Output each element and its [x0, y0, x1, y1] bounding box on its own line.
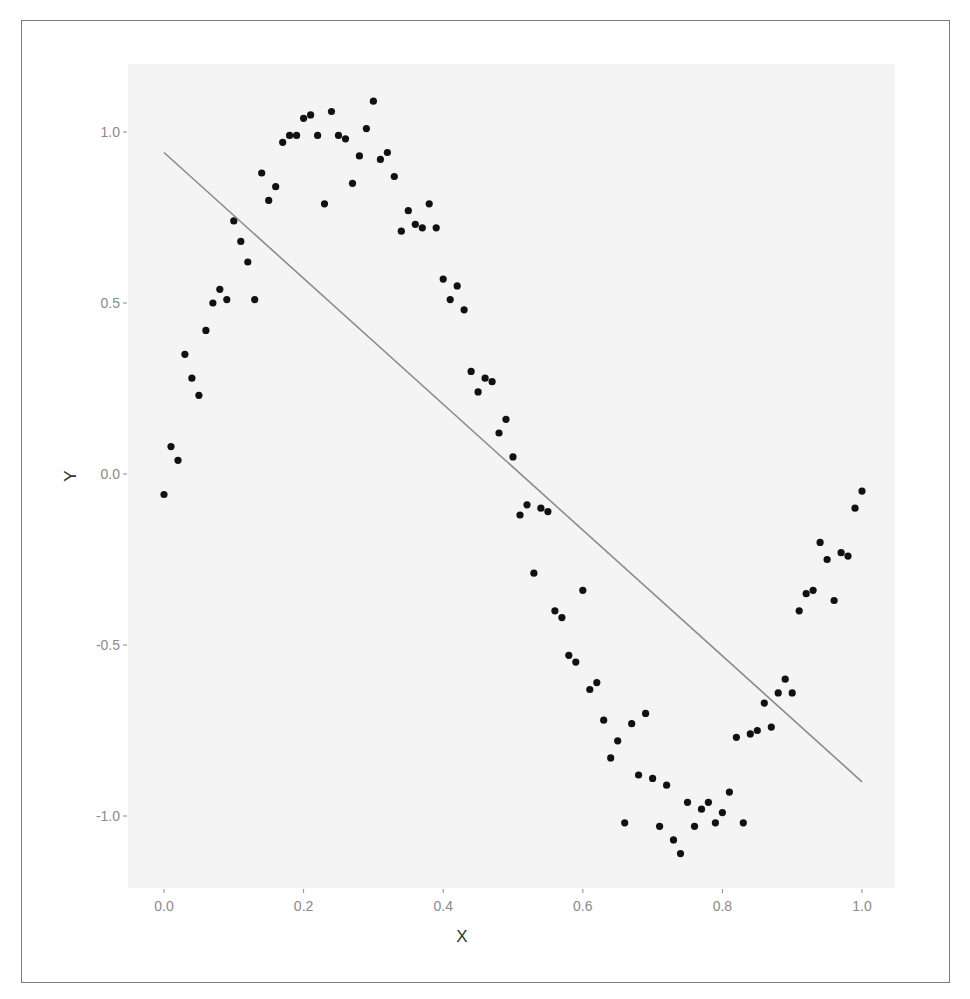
data-point: [433, 224, 440, 231]
data-point: [489, 378, 496, 385]
data-point: [321, 200, 328, 207]
scatter-chart: 0.00.20.40.60.81.0 -1.0-0.50.00.51.0 X Y: [0, 0, 970, 999]
data-point: [719, 809, 726, 816]
y-tick-label: 0.5: [101, 295, 121, 311]
data-point: [307, 111, 314, 118]
data-point: [195, 392, 202, 399]
data-point: [670, 836, 677, 843]
data-point: [572, 659, 579, 666]
data-point: [251, 296, 258, 303]
data-point: [475, 388, 482, 395]
data-point: [761, 700, 768, 707]
y-tick-label: -1.0: [96, 808, 120, 824]
x-axis-title: X: [456, 927, 467, 946]
data-point: [523, 501, 530, 508]
data-point: [817, 539, 824, 546]
data-point: [775, 689, 782, 696]
data-point: [544, 508, 551, 515]
data-point: [447, 296, 454, 303]
data-point: [621, 819, 628, 826]
data-point: [293, 132, 300, 139]
data-point: [691, 823, 698, 830]
data-point: [516, 511, 523, 518]
data-point: [614, 737, 621, 744]
data-point: [831, 597, 838, 604]
data-point: [398, 228, 405, 235]
data-point: [593, 679, 600, 686]
data-point: [642, 710, 649, 717]
data-point: [391, 173, 398, 180]
data-point: [174, 457, 181, 464]
data-point: [754, 727, 761, 734]
data-point: [314, 132, 321, 139]
data-point: [628, 720, 635, 727]
data-point: [586, 686, 593, 693]
data-point: [726, 789, 733, 796]
data-point: [844, 553, 851, 560]
data-point: [858, 488, 865, 495]
plot-panel: [128, 64, 895, 888]
data-point: [656, 823, 663, 830]
data-point: [188, 375, 195, 382]
data-point: [607, 754, 614, 761]
data-point: [419, 224, 426, 231]
data-point: [705, 799, 712, 806]
data-point: [537, 505, 544, 512]
x-tick-label: 0.2: [294, 898, 314, 914]
data-point: [258, 169, 265, 176]
data-point: [370, 98, 377, 105]
data-point: [412, 221, 419, 228]
data-point: [684, 799, 691, 806]
data-point: [579, 587, 586, 594]
data-point: [349, 180, 356, 187]
data-point: [509, 453, 516, 460]
data-point: [356, 152, 363, 159]
data-point: [328, 108, 335, 115]
data-point: [768, 724, 775, 731]
x-tick-label: 0.4: [433, 898, 453, 914]
data-point: [495, 429, 502, 436]
data-point: [558, 614, 565, 621]
data-point: [803, 590, 810, 597]
data-point: [649, 775, 656, 782]
y-axis: -1.0-0.50.00.51.0: [96, 124, 127, 824]
data-point: [810, 587, 817, 594]
data-point: [300, 115, 307, 122]
data-point: [167, 443, 174, 450]
data-point: [279, 139, 286, 146]
data-point: [181, 351, 188, 358]
data-point: [635, 771, 642, 778]
data-point: [342, 135, 349, 142]
data-point: [712, 819, 719, 826]
y-tick-label: -0.5: [96, 637, 120, 653]
data-point: [405, 207, 412, 214]
data-point: [796, 607, 803, 614]
y-tick-label: 1.0: [101, 124, 121, 140]
data-point: [363, 125, 370, 132]
data-point: [377, 156, 384, 163]
data-point: [454, 282, 461, 289]
x-tick-label: 1.0: [852, 898, 872, 914]
data-point: [502, 416, 509, 423]
data-point: [440, 276, 447, 283]
data-point: [663, 782, 670, 789]
data-point: [202, 327, 209, 334]
data-point: [335, 132, 342, 139]
data-point: [782, 676, 789, 683]
data-point: [551, 607, 558, 614]
data-point: [244, 258, 251, 265]
data-point: [530, 570, 537, 577]
data-point: [286, 132, 293, 139]
data-point: [824, 556, 831, 563]
data-point: [698, 806, 705, 813]
data-point: [733, 734, 740, 741]
data-point: [851, 505, 858, 512]
x-tick-label: 0.0: [154, 898, 174, 914]
data-point: [468, 368, 475, 375]
data-point: [160, 491, 167, 498]
data-point: [461, 306, 468, 313]
x-tick-label: 0.8: [713, 898, 733, 914]
x-axis: 0.00.20.40.60.81.0: [154, 889, 872, 914]
y-axis-title: Y: [61, 470, 80, 481]
data-point: [272, 183, 279, 190]
